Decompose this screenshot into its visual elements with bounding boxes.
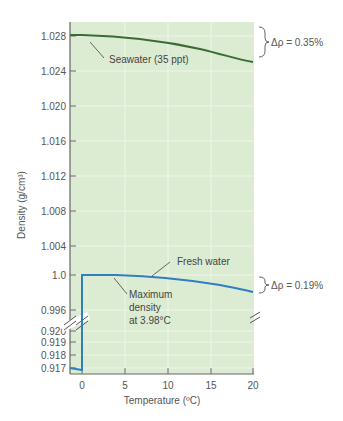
svg-text:1.012: 1.012 [41, 171, 66, 182]
svg-text:1.024: 1.024 [41, 66, 66, 77]
svg-text:0: 0 [79, 380, 85, 391]
svg-text:1.004: 1.004 [41, 241, 66, 252]
delta-fresh-label: Δρ = 0.19% [271, 280, 323, 291]
svg-text:1.028: 1.028 [41, 31, 66, 42]
delta-sea-label: Δρ = 0.35% [271, 37, 323, 48]
svg-text:1.0: 1.0 [52, 270, 66, 281]
x-axis-title: Temperature (ºC) [124, 395, 200, 406]
delta-fresh-brace [259, 277, 269, 293]
freshwater-label: Fresh water [177, 256, 230, 267]
svg-text:10: 10 [162, 380, 174, 391]
svg-text:0.919: 0.919 [41, 337, 66, 348]
svg-text:0.917: 0.917 [41, 363, 66, 374]
svg-text:15: 15 [205, 380, 217, 391]
delta-sea-brace [259, 27, 269, 57]
y-axis-title: Density (g/cm³) [16, 171, 27, 239]
y-tick-labels: 1.028 1.024 1.020 1.016 1.012 1.008 1.00… [41, 31, 66, 374]
maxdensity-label-line2: density [129, 302, 161, 313]
svg-text:1.008: 1.008 [41, 206, 66, 217]
density-chart: 1.028 1.024 1.020 1.016 1.012 1.008 1.00… [0, 0, 343, 421]
maxdensity-label-line3: at 3.98°C [129, 315, 171, 326]
svg-text:5: 5 [122, 380, 128, 391]
svg-text:1.016: 1.016 [41, 136, 66, 147]
svg-text:20: 20 [247, 380, 259, 391]
seawater-label: Seawater (35 ppt) [109, 54, 189, 65]
svg-text:0.918: 0.918 [41, 350, 66, 361]
svg-text:0.996: 0.996 [41, 305, 66, 316]
maxdensity-label-line1: Maximum [129, 289, 172, 300]
x-tick-labels: 0 5 10 15 20 [79, 380, 259, 391]
svg-text:1.020: 1.020 [41, 101, 66, 112]
